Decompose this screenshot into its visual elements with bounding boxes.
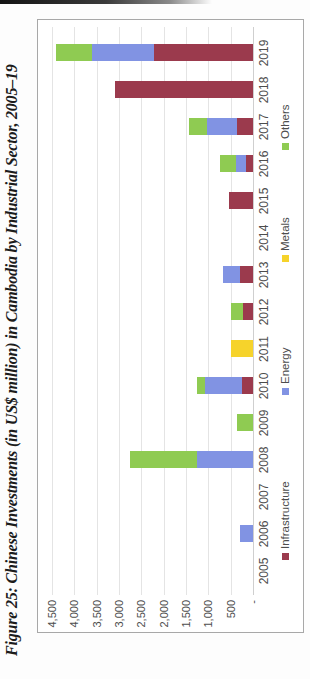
year-tick-label: 2006: [257, 515, 271, 553]
legend-item-metals: Metals: [279, 217, 292, 262]
legend-label: Metals: [279, 217, 292, 251]
bar-segment-others-2016: [220, 156, 236, 173]
bar-segment-infrastructure-2012: [243, 304, 253, 321]
value-tick-label: 500: [225, 600, 237, 632]
bar-segment-infrastructure-2017: [237, 119, 253, 136]
gridline: [141, 27, 142, 595]
axis-baseline: [253, 27, 254, 595]
bar-segment-others-2012: [231, 304, 243, 321]
legend-swatch-icon: [282, 143, 289, 150]
legend-label: Energy: [279, 348, 292, 384]
bar-segment-others-2019: [56, 45, 92, 62]
gridline: [74, 27, 75, 595]
scanned-page: Figure 25: Chinese Investments (in US$ m…: [0, 0, 310, 679]
year-tick-label: 2010: [257, 367, 271, 405]
value-tick-label: 3,500: [91, 600, 103, 632]
year-tick-label: 2016: [257, 145, 271, 183]
bar-segment-infrastructure-2016: [246, 156, 253, 173]
legend-label: Others: [279, 104, 292, 139]
value-tick-label: 1,500: [180, 600, 192, 632]
gridline: [52, 27, 53, 595]
legend-label: Infrastructure: [279, 481, 292, 549]
bar-segment-others-2017: [189, 119, 207, 136]
bar-segment-energy-2019: [92, 45, 154, 62]
value-tick-label: 3,000: [113, 600, 125, 632]
value-tick-label: 2,500: [135, 600, 147, 632]
legend-swatch-icon: [282, 388, 289, 395]
year-tick-label: 2018: [257, 71, 271, 109]
value-tick-label: 2,000: [158, 600, 170, 632]
gridline: [97, 27, 98, 595]
value-tick-label: -: [247, 600, 259, 632]
bar-segment-infrastructure-2015: [229, 193, 253, 210]
legend-item-energy: Energy: [279, 348, 292, 395]
bar-segment-others-2008: [130, 452, 197, 469]
bar-segment-energy-2013: [223, 267, 240, 284]
year-tick-label: 2007: [257, 478, 271, 516]
legend-swatch-icon: [282, 553, 289, 560]
bar-segment-metals-2011: [231, 341, 253, 358]
value-tick-label: 1,000: [202, 600, 214, 632]
year-tick-label: 2014: [257, 219, 271, 257]
bar-segment-others-2009: [237, 415, 253, 432]
year-tick-label: 2008: [257, 441, 271, 479]
bar-segment-energy-2016: [236, 156, 246, 173]
gridline: [164, 27, 165, 595]
value-tick-label: 4,500: [46, 600, 58, 632]
legend-item-others: Others: [279, 104, 292, 150]
gridline: [208, 27, 209, 595]
year-tick-label: 2013: [257, 256, 271, 294]
bar-segment-infrastructure-2013: [240, 267, 253, 284]
year-tick-label: 2019: [257, 34, 271, 72]
bar-segment-infrastructure-2019: [154, 45, 253, 62]
bar-segment-energy-2008: [197, 452, 253, 469]
bar-segment-infrastructure-2018: [115, 82, 253, 99]
year-tick-label: 2009: [257, 404, 271, 442]
chart-frame: -5001,0001,5002,0002,5003,0003,5004,0004…: [37, 19, 304, 633]
bar-segment-energy-2010: [205, 378, 242, 395]
year-tick-label: 2017: [257, 108, 271, 146]
legend-swatch-icon: [282, 255, 289, 262]
gridline: [119, 27, 120, 595]
legend-item-infrastructure: Infrastructure: [279, 481, 292, 560]
bar-segment-energy-2017: [207, 119, 237, 136]
value-tick-label: 4,000: [68, 600, 80, 632]
gridline: [186, 27, 187, 595]
bar-segment-infrastructure-2010: [242, 378, 253, 395]
bar-segment-others-2010: [197, 378, 205, 395]
year-tick-label: 2011: [257, 330, 271, 368]
bar-segment-energy-2006: [240, 526, 253, 543]
year-tick-label: 2015: [257, 182, 271, 220]
year-tick-label: 2005: [257, 552, 271, 590]
figure-rotated-container: Figure 25: Chinese Investments (in US$ m…: [0, 0, 310, 679]
figure-title: Figure 25: Chinese Investments (in US$ m…: [3, 16, 21, 656]
year-tick-label: 2012: [257, 293, 271, 331]
